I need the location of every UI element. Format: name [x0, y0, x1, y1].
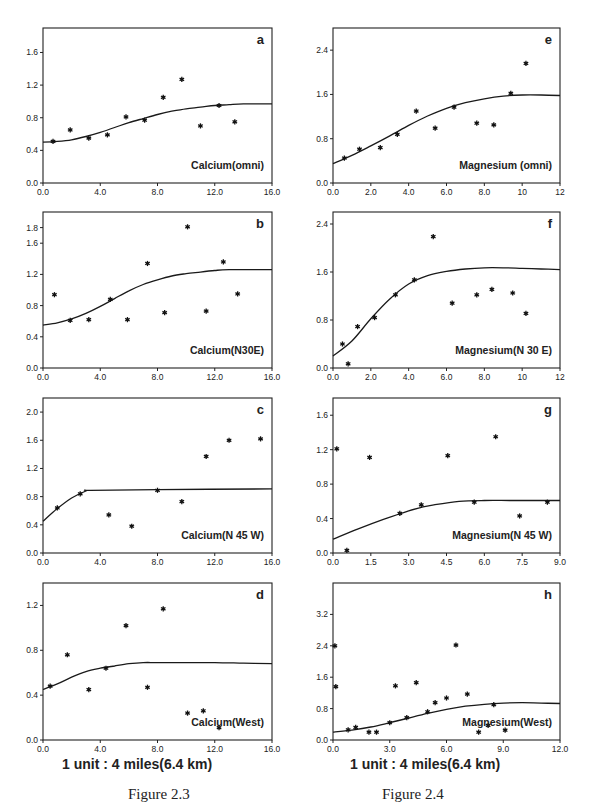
x-tick-label: 1.5 [365, 557, 377, 567]
series-title: Magnesium(N 30 E) [455, 344, 552, 356]
y-tick-label: 1.2 [316, 445, 328, 455]
x-tick-label: 16.0 [264, 744, 281, 754]
left-scale-caption: 1 unit : 4 miles(6.4 km) [62, 756, 212, 772]
y-tick-label: 0.0 [316, 548, 328, 558]
asterisk-marker-icon [162, 310, 167, 315]
y-tick-label: 2.4 [316, 641, 328, 651]
asterisk-marker-icon [475, 121, 480, 126]
y-tick-label: 1.6 [26, 47, 38, 57]
y-tick-label: 0.0 [316, 735, 328, 745]
x-tick-label: 4.0 [403, 372, 415, 382]
x-tick-label: 0.0 [37, 744, 49, 754]
asterisk-marker-icon [227, 438, 232, 443]
panel-label: a [257, 32, 265, 47]
asterisk-marker-icon [374, 730, 379, 735]
asterisk-marker-icon [431, 234, 436, 239]
asterisk-marker-icon [125, 317, 130, 322]
asterisk-marker-icon [433, 700, 438, 705]
asterisk-marker-icon [221, 259, 226, 264]
y-tick-label: 2.0 [26, 407, 38, 417]
asterisk-marker-icon [476, 730, 481, 735]
asterisk-marker-icon [355, 324, 360, 329]
y-tick-label: 0.8 [26, 301, 38, 311]
chart-panel-a: 0.04.08.012.016.00.00.40.81.21.6aCalcium… [26, 28, 280, 197]
y-tick-label: 0.8 [26, 113, 38, 123]
asterisk-marker-icon [129, 524, 134, 529]
x-tick-label: 3.0 [384, 744, 396, 754]
asterisk-marker-icon [161, 606, 166, 611]
series-title: Magnesium(West) [462, 716, 552, 728]
y-tick-label: 1.6 [26, 435, 38, 445]
asterisk-marker-icon [367, 730, 372, 735]
y-tick-label: 1.2 [26, 80, 38, 90]
x-tick-label: 4.5 [441, 557, 453, 567]
asterisk-marker-icon [433, 126, 438, 131]
asterisk-marker-icon [185, 710, 190, 715]
y-tick-label: 0.0 [316, 178, 328, 188]
x-tick-label: 9.0 [497, 744, 509, 754]
asterisk-marker-icon [450, 301, 455, 306]
model-curve [43, 489, 272, 521]
y-tick-label: 0.4 [26, 145, 38, 155]
asterisk-marker-icon [414, 680, 419, 685]
y-tick-label: 1.2 [26, 600, 38, 610]
asterisk-marker-icon [145, 261, 150, 266]
right-figure-caption: Figure 2.4 [382, 786, 444, 803]
y-tick-label: 0.4 [316, 514, 328, 524]
asterisk-marker-icon [258, 436, 263, 441]
x-tick-label: 8.0 [152, 372, 164, 382]
asterisk-marker-icon [52, 292, 57, 297]
asterisk-marker-icon [475, 292, 480, 297]
x-tick-label: 4.0 [94, 744, 106, 754]
asterisk-marker-icon [198, 123, 203, 128]
panel-label: b [256, 216, 264, 231]
asterisk-marker-icon [105, 132, 110, 137]
asterisk-marker-icon [87, 317, 92, 322]
asterisk-marker-icon [524, 61, 529, 66]
x-tick-label: 0.0 [37, 372, 49, 382]
y-tick-label: 0.4 [26, 332, 38, 342]
right-scale-caption: 1 unit : 4 miles(6.4 km) [350, 756, 500, 772]
x-tick-label: 0.0 [327, 372, 339, 382]
x-tick-label: 10 [517, 187, 527, 197]
x-tick-label: 12 [555, 372, 565, 382]
series-title: Calcium(N30E) [190, 344, 264, 356]
asterisk-marker-icon [124, 623, 129, 628]
asterisk-marker-icon [335, 446, 340, 451]
y-tick-label: 2.4 [316, 219, 328, 229]
y-tick-label: 0.8 [316, 315, 328, 325]
asterisk-marker-icon [493, 434, 498, 439]
x-tick-label: 8.0 [478, 187, 490, 197]
asterisk-marker-icon [510, 290, 515, 295]
asterisk-marker-icon [161, 95, 166, 100]
chart-panel-g: 0.01.53.04.56.07.59.00.00.40.81.21.6gMag… [316, 398, 566, 567]
y-tick-label: 1.6 [316, 89, 328, 99]
x-tick-label: 0.0 [327, 744, 339, 754]
y-tick-label: 0.8 [316, 704, 328, 714]
x-tick-label: 2.0 [365, 372, 377, 382]
asterisk-marker-icon [346, 727, 351, 732]
asterisk-marker-icon [235, 291, 240, 296]
y-tick-label: 1.6 [26, 238, 38, 248]
x-tick-label: 12.0 [206, 557, 223, 567]
x-tick-label: 0.0 [327, 187, 339, 197]
y-tick-label: 2.4 [316, 45, 328, 55]
y-tick-label: 1.6 [316, 267, 328, 277]
asterisk-marker-icon [145, 685, 150, 690]
x-tick-label: 12.0 [552, 744, 569, 754]
series-title: Calcium(N 45 W) [181, 529, 264, 541]
asterisk-marker-icon [180, 77, 185, 82]
asterisk-marker-icon [345, 548, 350, 553]
y-tick-label: 0.0 [316, 363, 328, 373]
x-tick-label: 10 [517, 372, 527, 382]
x-tick-label: 16.0 [264, 187, 281, 197]
panel-label: h [544, 587, 552, 602]
x-tick-label: 0.0 [37, 557, 49, 567]
y-tick-label: 0.8 [26, 645, 38, 655]
series-title: Calcium(omni) [191, 159, 264, 171]
model-curve [43, 663, 272, 690]
asterisk-marker-icon [65, 652, 70, 657]
asterisk-marker-icon [503, 728, 508, 733]
asterisk-marker-icon [204, 454, 209, 459]
asterisk-marker-icon [204, 308, 209, 313]
